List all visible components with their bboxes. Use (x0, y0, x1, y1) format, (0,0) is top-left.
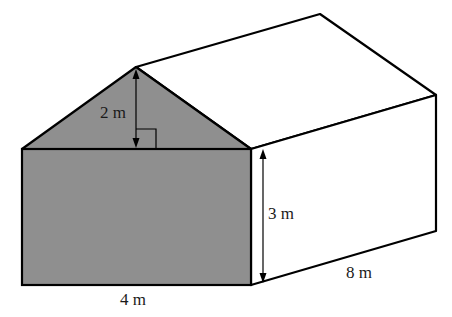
label-width: 4 m (120, 290, 146, 309)
label-roof-height: 2 m (100, 103, 126, 122)
label-length: 8 m (346, 263, 372, 282)
house-prism-diagram: 2 m 3 m 4 m 8 m (0, 0, 452, 317)
front-wall-rectangle (22, 149, 251, 285)
label-wall-height: 3 m (268, 204, 294, 223)
